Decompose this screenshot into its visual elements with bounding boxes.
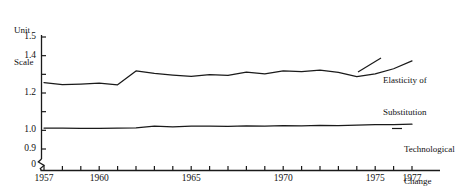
leader-line-elasticity: [358, 58, 381, 72]
series-label-technological-change: Technological Change: [404, 123, 455, 188]
x-tick-label-1965: 1965: [171, 173, 211, 183]
y-tick-label-1-2: 1.2: [14, 87, 36, 97]
y-tick-label-1-4: 1.4: [14, 50, 36, 60]
series-label-elasticity-line2: Substitution: [383, 107, 427, 118]
y-tick-label-0-9: 0.9: [14, 143, 36, 153]
chart-figure: Unit Scale 0.91.01.21.41.50 195719601965…: [0, 0, 471, 188]
series-line-elasticity-of-substitution: [44, 61, 412, 85]
series-label-technological-line2: Change: [404, 176, 455, 187]
x-tick-label-1970: 1970: [263, 173, 303, 183]
x-tick-label-1960: 1960: [79, 173, 119, 183]
y-tick-label-1-5: 1.5: [14, 31, 36, 41]
y-tick-label-1-0: 1.0: [14, 124, 36, 134]
series-label-elasticity-line1: Elasticity of: [383, 75, 427, 86]
x-tick-label-1975: 1975: [355, 173, 395, 183]
series-label-technological-line1: Technological: [404, 144, 455, 155]
series-line-technological-change: [44, 124, 412, 128]
y-tick-label-zero: 0: [14, 159, 36, 169]
x-tick-label-1957: 1957: [24, 173, 64, 183]
